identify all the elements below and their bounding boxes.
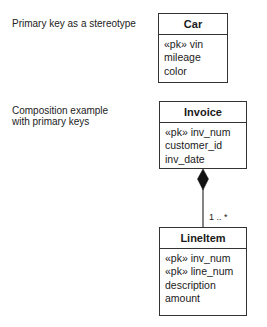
attribute: «pk» line_num <box>165 265 241 278</box>
class-lineitem-attributes: «pk» inv_num «pk» line_num description a… <box>160 249 246 308</box>
composition-diamond-icon <box>198 169 209 190</box>
attribute: «pk» inv_num <box>165 252 241 265</box>
class-lineitem: LineItem «pk» inv_num «pk» line_num desc… <box>159 227 247 316</box>
multiplicity-label: 1 .. * <box>209 212 228 222</box>
attribute: description <box>165 279 241 292</box>
class-lineitem-name: LineItem <box>160 228 246 249</box>
attribute: amount <box>165 292 241 305</box>
